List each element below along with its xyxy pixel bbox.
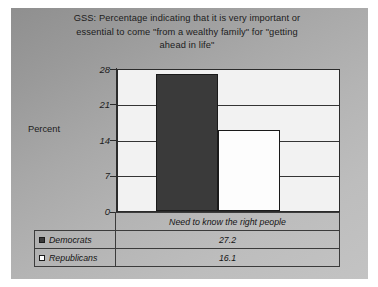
y-axis-tick-7: [110, 176, 117, 177]
legend-swatch-filled-square-icon: [39, 237, 45, 243]
table-corner-cell: [35, 213, 116, 231]
y-axis-tick-21: [110, 104, 117, 105]
gridline-21: [118, 105, 339, 106]
table-row: Democrats 27.2: [35, 231, 340, 249]
table-value-democrats: 27.2: [116, 231, 340, 249]
chart-title-line-1: GSS: Percentage indicating that it is ve…: [28, 12, 346, 26]
y-axis-tick-14: [110, 140, 117, 141]
chart-title-line-2: essential to come "from a wealthy family…: [28, 26, 346, 40]
table-row: Republicans 16.1: [35, 249, 340, 267]
bar-republicans: [218, 130, 280, 211]
y-axis-title: Percent: [28, 124, 60, 134]
legend-item-democrats: Democrats: [35, 231, 116, 249]
legend-label-republicans: Republicans: [49, 253, 97, 263]
plot-area: [117, 69, 340, 212]
table-category-header: Need to know the right people: [116, 213, 340, 231]
chart-container: GSS: Percentage indicating that it is ve…: [0, 0, 378, 287]
table-header-row: Need to know the right people: [35, 213, 340, 231]
legend-item-republicans: Republicans: [35, 249, 116, 267]
y-axis-tick-28: [110, 69, 117, 70]
y-tick-label-7: 7: [76, 170, 110, 181]
chart-title-line-3: ahead in life": [28, 39, 346, 53]
legend-swatch-empty-square-icon: [39, 255, 45, 261]
data-table: Need to know the right people Democrats …: [34, 212, 340, 267]
y-tick-label-21: 21: [76, 99, 110, 110]
legend-label-democrats: Democrats: [49, 235, 92, 245]
bar-democrats: [156, 74, 218, 211]
y-tick-label-28: 28: [76, 64, 110, 75]
y-tick-label-14: 14: [76, 135, 110, 146]
chart-title: GSS: Percentage indicating that it is ve…: [28, 12, 346, 53]
table-value-republicans: 16.1: [116, 249, 340, 267]
